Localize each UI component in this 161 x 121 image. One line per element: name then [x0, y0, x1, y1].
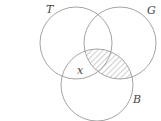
label-t: T: [46, 3, 55, 16]
venn-diagram: T G B x: [0, 0, 161, 121]
label-b: B: [132, 93, 141, 106]
label-g: G: [147, 4, 156, 17]
label-x: x: [77, 64, 84, 77]
circle-t: [40, 7, 112, 79]
